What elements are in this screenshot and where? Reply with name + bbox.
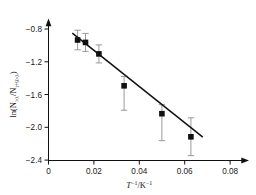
y-axis-title: ln(N>λ/Nt+9>λ)	[8, 71, 20, 118]
y-axis-arrowhead	[46, 19, 52, 27]
error-bar	[121, 77, 127, 111]
x-tick-label-0: 0	[46, 167, 51, 176]
figure-container: −0.8 −1.2 −1.6 −2.0 −2.4 0 0.02 0.04 0.0…	[0, 0, 256, 195]
y-tick-marks	[45, 29, 49, 160]
y-tick-labels: −0.8 −1.2 −1.6 −2.0 −2.4	[26, 25, 43, 165]
data-point	[83, 40, 89, 46]
error-bar	[159, 105, 165, 141]
x-axis-arrowhead	[241, 158, 249, 164]
data-point	[75, 37, 81, 43]
x-tick-label-1: 0.02	[86, 167, 102, 176]
y-tick-label-0: −0.8	[26, 25, 43, 34]
svg-text:ln(N>λ/Nt+9>λ): ln(N>λ/Nt+9>λ)	[8, 71, 20, 118]
y-tick-label-4: −2.4	[26, 156, 43, 165]
y-axis-title-close: )	[8, 71, 18, 74]
arrhenius-scatter-plot: −0.8 −1.2 −1.6 −2.0 −2.4 0 0.02 0.04 0.0…	[0, 0, 256, 195]
svg-text:T−1/K−1: T−1/K−1	[126, 180, 152, 190]
x-tick-labels: 0 0.02 0.04 0.06 0.08	[46, 167, 238, 176]
x-tick-label-3: 0.06	[177, 167, 193, 176]
data-point	[96, 51, 102, 57]
data-markers-group	[75, 37, 194, 139]
x-tick-marks	[49, 161, 231, 165]
y-axis-title-base1: ln(N	[8, 101, 18, 118]
y-tick-label-1: −1.2	[26, 58, 43, 67]
data-point	[121, 83, 127, 89]
x-axis-title: T−1/K−1	[126, 180, 152, 190]
y-axis-title-sub2: t+9>λ	[14, 74, 20, 88]
y-tick-label-2: −1.6	[26, 91, 43, 100]
x-tick-label-2: 0.04	[131, 167, 147, 176]
x-axis-title-sup2: −1	[146, 180, 152, 186]
data-point	[159, 111, 165, 117]
y-tick-label-3: −2.0	[26, 123, 43, 132]
x-tick-label-4: 0.08	[222, 167, 238, 176]
data-point	[188, 134, 194, 140]
regression-line	[72, 33, 203, 137]
